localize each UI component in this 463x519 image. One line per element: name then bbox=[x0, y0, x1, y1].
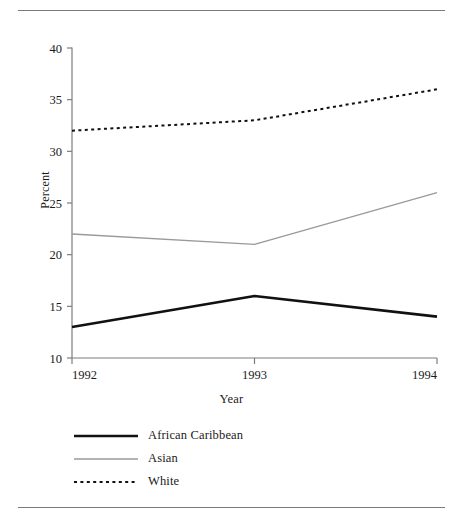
series-line bbox=[72, 89, 437, 130]
plot-area: 10152025303540199219931994 bbox=[0, 20, 463, 380]
x-tick-label: 1992 bbox=[72, 368, 97, 380]
series-line bbox=[72, 296, 437, 327]
y-tick-label: 10 bbox=[50, 352, 63, 366]
legend-item-african-caribbean: African Caribbean bbox=[74, 424, 394, 447]
y-axis-title: Percent bbox=[38, 150, 53, 230]
legend-item-white: White bbox=[74, 470, 394, 493]
y-tick-label: 20 bbox=[50, 248, 63, 262]
series-line bbox=[72, 193, 437, 245]
legend-label-asian: Asian bbox=[148, 451, 178, 466]
legend-swatch-asian bbox=[74, 453, 138, 465]
x-tick-label: 1993 bbox=[242, 368, 267, 380]
legend-label-white: White bbox=[148, 474, 179, 489]
top-rule bbox=[18, 10, 445, 11]
line-chart: 10152025303540199219931994 bbox=[0, 20, 463, 380]
x-tick-label: 1994 bbox=[412, 368, 438, 380]
legend-item-asian: Asian bbox=[74, 447, 394, 470]
y-tick-label: 15 bbox=[50, 300, 63, 314]
chart-legend: African Caribbean Asian White bbox=[74, 424, 394, 493]
legend-label-african-caribbean: African Caribbean bbox=[148, 428, 243, 443]
figure-frame: 10152025303540199219931994 Percent Year … bbox=[0, 0, 463, 519]
x-axis-title: Year bbox=[0, 392, 463, 407]
y-tick-label: 40 bbox=[50, 42, 63, 56]
legend-swatch-white bbox=[74, 476, 138, 488]
y-tick-label: 35 bbox=[50, 93, 63, 107]
legend-swatch-african-caribbean bbox=[74, 430, 138, 442]
bottom-rule bbox=[18, 507, 445, 508]
